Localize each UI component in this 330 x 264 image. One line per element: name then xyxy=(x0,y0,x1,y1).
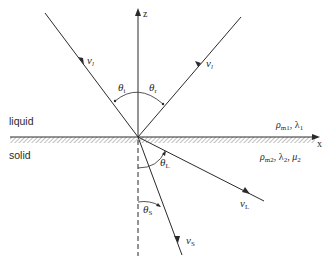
shear-velocity-label: vS xyxy=(186,235,195,248)
theta-sub: r xyxy=(154,87,156,95)
incident-velocity-label: vl xyxy=(87,55,94,68)
incident-ray xyxy=(45,13,138,137)
arc-dot-left xyxy=(114,100,116,102)
solid-label: solid xyxy=(9,150,31,161)
lambda-sub: 1 xyxy=(300,124,304,132)
v-sub: L xyxy=(245,203,249,211)
rho-sub: m1 xyxy=(281,124,290,132)
incident-angle-label: θi xyxy=(118,82,125,95)
longitudinal-arrowhead-icon xyxy=(242,187,250,194)
reflected-ray xyxy=(138,17,241,137)
shear-arc-arrowhead-icon xyxy=(156,203,161,207)
shear-angle-label: θS xyxy=(143,204,152,217)
theta-sub: S xyxy=(148,209,152,217)
rho-sub: m2 xyxy=(265,156,274,164)
liquid-properties: ρm1, λ1 xyxy=(276,120,303,132)
z-axis-arrowhead-icon xyxy=(135,8,141,16)
theta-sub: i xyxy=(123,87,125,95)
solid-properties: ρm2, λ2, μ2 xyxy=(260,152,301,164)
liquid-label: liquid xyxy=(9,116,34,127)
reflected-velocity-label: vl xyxy=(206,58,213,71)
z-axis-label: z xyxy=(143,9,147,19)
longitudinal-velocity-label: vL xyxy=(240,198,249,211)
theta-sub: L xyxy=(165,162,169,170)
reflected-arrowhead-icon xyxy=(195,61,201,67)
mu-sub: 2 xyxy=(297,156,301,164)
v-sub: S xyxy=(191,240,195,248)
reflected-angle-label: θr xyxy=(149,82,157,95)
longitudinal-angle-label: θL xyxy=(160,157,170,170)
wave-refraction-diagram xyxy=(0,0,330,264)
solid-surface-hatch xyxy=(10,137,315,143)
v-sub: l xyxy=(92,60,94,68)
v-sub: l xyxy=(211,63,213,71)
arc-dot-right xyxy=(162,103,164,105)
x-axis-label: x xyxy=(317,139,322,149)
